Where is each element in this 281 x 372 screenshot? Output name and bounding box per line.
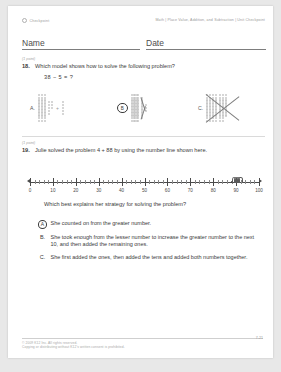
- tick-label: 100: [255, 188, 263, 193]
- minor-tick: [57, 180, 58, 185]
- question-18-choices: A. + B: [22, 86, 265, 130]
- dot: [225, 99, 227, 101]
- dot: [48, 101, 50, 103]
- dot: [222, 120, 224, 122]
- minor-tick: [204, 180, 205, 185]
- dot: [44, 99, 46, 101]
- dot-column: [131, 94, 133, 123]
- dot: [222, 111, 224, 113]
- dot: [41, 120, 43, 122]
- dot: [136, 102, 138, 104]
- dot: [38, 120, 40, 122]
- dot: [44, 105, 46, 107]
- dot: [44, 102, 46, 104]
- dot: [44, 111, 46, 113]
- dot: [41, 114, 43, 116]
- tick-label: 10: [50, 188, 55, 193]
- dot-column: [136, 94, 138, 123]
- choice-a-tens-dots: [38, 94, 46, 123]
- question-19-choice-a-letter: A: [38, 220, 47, 229]
- minor-tick: [135, 180, 136, 185]
- choice-a-model: +: [38, 94, 64, 123]
- minor-tick: [85, 180, 86, 185]
- choice-b-tens-dots: [131, 94, 139, 123]
- question-19-number: 19.: [22, 147, 31, 155]
- minor-tick: [67, 180, 68, 185]
- dot: [131, 99, 133, 101]
- minor-tick: [90, 180, 91, 185]
- choice-b-model: [131, 94, 147, 123]
- dot-column: [44, 94, 46, 123]
- tick-label: 0: [29, 188, 32, 193]
- name-field[interactable]: Name: [22, 32, 140, 50]
- question-18-choice-a-letter: A.: [30, 105, 35, 111]
- minor-tick: [131, 180, 132, 185]
- dot-column: [219, 94, 221, 123]
- major-tick: [122, 178, 123, 185]
- dot-column: [133, 94, 135, 123]
- header-checkpoint-tag: Checkpoint: [22, 18, 49, 23]
- dot: [136, 97, 138, 99]
- footer-divider: [22, 338, 263, 339]
- minor-tick: [199, 180, 200, 185]
- dot: [51, 101, 53, 103]
- dot: [219, 114, 221, 116]
- major-tick: [213, 178, 214, 185]
- dot: [38, 97, 40, 99]
- dot: [131, 120, 133, 122]
- name-label: Name: [22, 38, 48, 48]
- question-19-choice-a[interactable]: A She counted on from the greater number…: [38, 220, 261, 229]
- minor-tick: [154, 180, 155, 185]
- dot: [136, 105, 138, 107]
- worksheet-page: Checkpoint Math | Place Value, Addition,…: [8, 6, 273, 358]
- dot: [62, 113, 64, 115]
- minor-tick: [250, 180, 251, 185]
- question-19-choice-b[interactable]: B. She took enough from the lesser numbe…: [38, 234, 261, 250]
- date-field[interactable]: Date: [146, 32, 266, 50]
- minor-tick: [181, 180, 182, 185]
- minor-tick: [39, 180, 40, 185]
- dot: [38, 114, 40, 116]
- tick-label: 80: [211, 188, 216, 193]
- dot: [131, 97, 133, 99]
- minor-tick: [71, 180, 72, 185]
- dot: [131, 94, 133, 96]
- breadcrumb: Math | Place Value, Addition, and Subtra…: [155, 18, 265, 22]
- dot: [41, 99, 43, 101]
- dot: [131, 102, 133, 104]
- dot: [62, 107, 64, 109]
- dot: [219, 120, 221, 122]
- dot: [131, 114, 133, 116]
- question-19-choice-c[interactable]: C. She first added the ones, then added …: [38, 254, 261, 262]
- header-checkpoint-label: Checkpoint: [29, 19, 49, 23]
- question-18-points: (1 point): [22, 57, 263, 61]
- question-18-choice-a[interactable]: A. +: [30, 86, 64, 130]
- dot: [44, 94, 46, 96]
- question-18-choice-c[interactable]: C.: [198, 86, 227, 130]
- minor-tick: [245, 180, 246, 185]
- dot: [225, 114, 227, 116]
- dot: [136, 117, 138, 119]
- minor-tick: [80, 180, 81, 185]
- minor-tick: [177, 180, 178, 185]
- dot: [131, 117, 133, 119]
- minor-tick: [117, 180, 118, 185]
- choice-b-crossed-group: [141, 97, 143, 120]
- tick-label: 40: [119, 188, 124, 193]
- tick-label: 50: [142, 188, 147, 193]
- dot: [136, 114, 138, 116]
- major-tick: [99, 178, 100, 185]
- name-rule: [22, 49, 140, 50]
- page-footer: © 2009 K12 Inc. All rights reserved. Cop…: [22, 338, 263, 346]
- major-tick: [167, 178, 168, 185]
- dot: [62, 110, 64, 112]
- question-18-choice-b-letter: B: [117, 103, 128, 114]
- dot: [48, 113, 50, 115]
- minor-tick: [163, 180, 164, 185]
- dot: [222, 114, 224, 116]
- minor-tick: [209, 180, 210, 185]
- question-19-prompt-row: 19. Julie solved the problem 4 + 88 by u…: [22, 147, 263, 155]
- question-18-choice-b[interactable]: B: [117, 86, 147, 130]
- choice-c-model: [206, 94, 227, 123]
- page-header: Checkpoint Math | Place Value, Addition,…: [22, 18, 265, 27]
